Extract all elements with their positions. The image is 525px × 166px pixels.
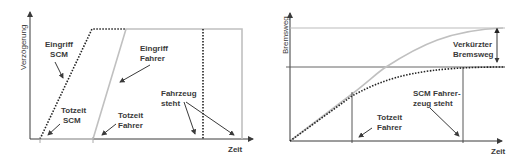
label-scm-fahrzeug-steht: SCM Fahrer- zeug steht — [413, 89, 461, 109]
label-totzeit-fahrer: Totzeit Fahrer — [118, 111, 143, 131]
label-verkuerzter-bremsweg: Verkürzter Bremsweg — [453, 40, 493, 60]
deceleration-diagram: Verzögerung Zeit Eingriff SCM Eingriff F… — [0, 0, 262, 166]
x-axis-label: Zeit — [228, 145, 242, 154]
label-totzeit-fahrer: Totzeit Fahrer — [377, 113, 402, 133]
y-axis-label: Verzögerung — [19, 25, 28, 70]
deceleration-plot — [0, 0, 262, 166]
arrow-eingriff-scm — [55, 62, 63, 78]
arrow-eingriff-fahrer — [120, 65, 150, 82]
label-totzeit-scm: Totzeit SCM — [61, 106, 86, 126]
arrow-totzeit-scm — [48, 124, 60, 135]
arrow-totzeit-fahrer — [102, 124, 116, 135]
braking-distance-diagram: Bremsweg Zeit Verkürzter Bremsweg SCM Fa… — [262, 0, 525, 166]
arrow-totzeit-fahrer — [359, 128, 372, 137]
x-axis-label: Zeit — [491, 147, 505, 156]
label-eingriff-fahrer: Eingriff Fahrer — [140, 44, 168, 64]
y-axis-label: Bremsweg — [281, 16, 290, 54]
label-fahrzeug-steht: Fahrzeug steht — [161, 89, 197, 109]
arrow-scm-steht — [430, 108, 459, 136]
braking-distance-plot — [262, 0, 525, 166]
label-eingriff-scm: Eingriff SCM — [45, 40, 73, 60]
